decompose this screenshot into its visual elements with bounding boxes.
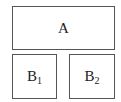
box-b2: B2 [69, 54, 115, 99]
box-a: A [12, 6, 115, 50]
box-b2-label: B2 [84, 68, 99, 86]
box-b1-label: B1 [27, 68, 42, 86]
box-b1: B1 [12, 54, 57, 99]
box-a-label: A [58, 20, 69, 37]
